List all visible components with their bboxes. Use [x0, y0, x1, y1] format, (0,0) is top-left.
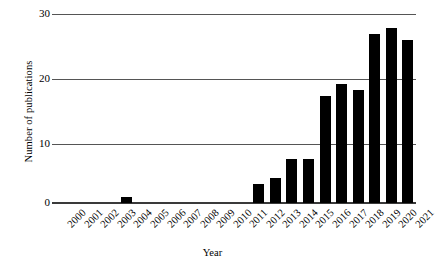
- x-label-slot: 2015: [300, 205, 317, 247]
- x-label-slot: 2004: [118, 205, 135, 247]
- bar-slot: [184, 10, 201, 203]
- bar-slot: [118, 10, 135, 203]
- bar-slot: [201, 10, 218, 203]
- bar-2018[interactable]: [353, 90, 364, 203]
- bar-slot: [234, 10, 251, 203]
- x-label-slot: 2013: [267, 205, 284, 247]
- x-label-slot: 2014: [284, 205, 301, 247]
- bar-2004[interactable]: [121, 197, 132, 203]
- bar-2014[interactable]: [286, 159, 297, 203]
- bar-slot: [267, 10, 284, 203]
- y-tick-label-20: 20: [24, 73, 50, 84]
- x-label-slot: 2018: [350, 205, 367, 247]
- bar-slot: [217, 10, 234, 203]
- bar-2016[interactable]: [320, 96, 331, 203]
- bar-2020[interactable]: [386, 28, 397, 203]
- x-label-slot: 2016: [317, 205, 334, 247]
- x-label-slot: 2002: [85, 205, 102, 247]
- x-label-slot: 2008: [184, 205, 201, 247]
- x-label-slot: 2006: [151, 205, 168, 247]
- bar-2015[interactable]: [303, 159, 314, 203]
- x-label-slot: 2011: [234, 205, 251, 247]
- bar-slot: [399, 10, 416, 203]
- y-tick-label-30: 30: [24, 8, 50, 19]
- x-axis-title: Year: [0, 247, 425, 258]
- bar-slot: [151, 10, 168, 203]
- bar-2017[interactable]: [336, 84, 347, 203]
- bar-2021[interactable]: [402, 40, 413, 203]
- x-label-slot: 2010: [217, 205, 234, 247]
- x-label-slot: 2001: [69, 205, 86, 247]
- bar-slot: [366, 10, 383, 203]
- x-label-slot: 2009: [201, 205, 218, 247]
- y-tick-label-10: 10: [24, 138, 50, 149]
- x-tick-label-2021: 2021: [413, 207, 436, 230]
- bar-slot: [85, 10, 102, 203]
- bar-slot: [300, 10, 317, 203]
- bar-slot: [350, 10, 367, 203]
- bar-2019[interactable]: [369, 34, 380, 203]
- bar-slot: [251, 10, 268, 203]
- x-axis-tick-labels: 2000200120022003200420052006200720082009…: [52, 205, 416, 247]
- bar-slot: [52, 10, 69, 203]
- x-label-slot: 2007: [168, 205, 185, 247]
- bar-slot: [102, 10, 119, 203]
- bar-2013[interactable]: [270, 178, 281, 203]
- y-axis-tick-labels: 30 20 10 0: [12, 0, 50, 267]
- x-label-slot: 2021: [399, 205, 416, 247]
- bar-slot: [135, 10, 152, 203]
- bar-slot: [168, 10, 185, 203]
- bar-2012[interactable]: [253, 184, 264, 203]
- x-label-slot: 2000: [52, 205, 69, 247]
- x-label-slot: 2017: [333, 205, 350, 247]
- x-label-slot: 2003: [102, 205, 119, 247]
- x-label-slot: 2012: [251, 205, 268, 247]
- bar-series: [52, 10, 416, 203]
- y-tick-label-0: 0: [24, 197, 50, 208]
- bar-slot: [317, 10, 334, 203]
- x-label-slot: 2019: [366, 205, 383, 247]
- bar-slot: [333, 10, 350, 203]
- x-label-slot: 2020: [383, 205, 400, 247]
- plot-area: [52, 10, 416, 203]
- bar-slot: [284, 10, 301, 203]
- bar-slot: [69, 10, 86, 203]
- x-label-slot: 2005: [135, 205, 152, 247]
- bar-slot: [383, 10, 400, 203]
